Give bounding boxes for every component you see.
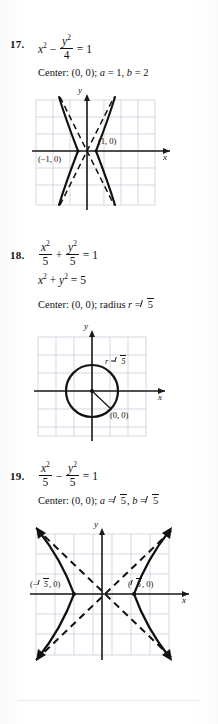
radicand: 5 <box>120 355 126 366</box>
graph-17-y-axis-label: y <box>78 85 82 95</box>
problem-19-answer: Center: (0, 0); a =5, b =5 <box>38 494 159 507</box>
graph-17-svg <box>30 86 180 211</box>
equation-fraction-1: x2 5 <box>39 461 52 488</box>
fraction-denominator: 4 <box>60 48 73 61</box>
vertex-right-point <box>94 149 97 152</box>
problem-19-equation: x2 5 − y2 5 = 1 <box>38 461 98 488</box>
radius-label: r <box>128 299 132 310</box>
graph-18-radius-label: r =5 <box>105 355 126 366</box>
fraction-1-denominator: 5 <box>39 254 52 267</box>
axes <box>30 530 189 660</box>
problem-17-answer: Center: (0, 0); a = 1, b = 2 <box>38 67 148 78</box>
equation-operator: − <box>50 43 57 55</box>
fraction-2-numerator-exponent: 2 <box>73 460 77 469</box>
graph-problem-17: y x (−1, 0) (1, 0) <box>30 86 180 211</box>
simplified-term-1-exponent: 2 <box>43 272 47 281</box>
a-label: a <box>100 67 105 78</box>
simplified-term-2-exponent: 2 <box>64 272 68 281</box>
problem-17-number: 17. <box>10 38 24 50</box>
vertex-left-point <box>76 149 79 152</box>
b-value: = 2 <box>135 67 149 78</box>
a-radical-sign: 5 <box>114 494 127 507</box>
fraction-numerator: y2 <box>60 34 73 48</box>
center-label: Center: <box>38 67 69 78</box>
simplified-equals: = 5 <box>71 274 86 286</box>
b-label: b <box>127 67 132 78</box>
equation-equals: = 1 <box>83 470 98 482</box>
graph-problem-19: y x (−5, 0) (5, 0) <box>24 522 204 662</box>
equation-equals: = 1 <box>77 43 92 55</box>
radicand: 5 <box>43 578 49 589</box>
b-radical-sign: 5 <box>146 494 159 507</box>
fraction-1-numerator-exponent: 2 <box>46 460 50 469</box>
equation-operator: + <box>56 249 63 261</box>
axes <box>34 332 165 441</box>
fraction-2-numerator: y2 <box>66 461 79 475</box>
graph-17-vertex-right-label: (1, 0) <box>98 136 116 146</box>
equation-term-x-exponent: 2 <box>43 41 47 50</box>
fraction-1-numerator-exponent: 2 <box>46 239 50 248</box>
y-axis-arrow <box>99 528 105 535</box>
page-footer-rule <box>18 700 200 701</box>
fraction-2-denominator: 5 <box>66 254 79 267</box>
vertex-right-point <box>132 592 136 596</box>
fraction-2-denominator: 5 <box>66 475 79 488</box>
problem-18-number: 18. <box>10 249 24 261</box>
radius-segment <box>92 391 111 409</box>
center-point <box>90 389 94 393</box>
a-label: a <box>100 495 105 506</box>
fraction-1-denominator: 5 <box>39 475 52 488</box>
graph-19-x-axis-label: x <box>182 595 186 605</box>
vertex-left-point <box>72 592 76 596</box>
radicand: 5 <box>136 578 142 589</box>
graph-18-center-label: (0, 0) <box>110 410 128 420</box>
radical-sign: 5 <box>115 355 126 366</box>
a-value: = 1, <box>108 67 124 78</box>
graph-19-vertex-right-label: (5, 0) <box>128 578 153 589</box>
b-radicand: 5 <box>152 494 159 507</box>
problem-18-answer: Center: (0, 0); radius r =5 <box>38 298 154 311</box>
problem-18-equation: x2 5 + y2 5 = 1 <box>38 240 98 267</box>
equation-fraction: y2 4 <box>60 34 73 61</box>
graph-19-svg <box>24 522 204 662</box>
radius-var: r <box>105 356 108 366</box>
b-label: b <box>132 495 137 506</box>
simplified-operator: + <box>50 274 57 286</box>
center-label: Center: <box>38 495 69 506</box>
textbook-answer-page: 17. x2 − y2 4 = 1 Center: (0, 0); a = 1,… <box>0 0 218 724</box>
radicand: 5 <box>147 298 154 311</box>
radical-sign: 5 <box>38 578 49 589</box>
equation-fraction-1: x2 5 <box>39 240 52 267</box>
equation-fraction-2: y2 5 <box>66 461 79 488</box>
center-value: (0, 0); <box>72 67 98 78</box>
graph-18-x-axis-label: x <box>158 392 162 402</box>
a-radicand: 5 <box>120 494 127 507</box>
vertex-right-suffix: , 0) <box>142 579 153 589</box>
graph-17-x-axis-label: x <box>163 152 167 162</box>
graph-18-y-axis-label: y <box>84 321 88 331</box>
center-label: Center: <box>38 299 69 310</box>
fraction-2-numerator-exponent: 2 <box>73 239 77 248</box>
problem-17-equation: x2 − y2 4 = 1 <box>38 34 92 61</box>
graph-17-vertex-left-label: (−1, 0) <box>38 154 61 164</box>
graph-18-svg <box>32 324 182 442</box>
graph-19-vertex-left-label: (−5, 0) <box>30 578 60 589</box>
fraction-1-numerator: x2 <box>39 240 52 254</box>
graph-19-y-axis-label: y <box>94 519 98 529</box>
y-axis-arrow <box>84 94 90 101</box>
problem-19-number: 19. <box>10 470 24 482</box>
answer-comma: , <box>127 495 130 506</box>
fraction-numerator-exponent: 2 <box>67 33 71 42</box>
equation-equals: = 1 <box>83 249 98 261</box>
radical-sign: 5 <box>141 298 154 311</box>
equation-fraction-2: y2 5 <box>66 240 79 267</box>
problem-18-equation-simplified: x2 + y2 = 5 <box>38 272 86 286</box>
vertex-left-suffix: , 0) <box>49 579 60 589</box>
equation-operator: − <box>56 470 63 482</box>
center-value: (0, 0); radius <box>72 299 126 310</box>
fraction-1-numerator: x2 <box>39 461 52 475</box>
graph-problem-18: y x r =5 (0, 0) <box>32 324 182 442</box>
y-axis-arrow <box>89 330 95 337</box>
center-value: (0, 0); <box>72 495 98 506</box>
radical-sign: 5 <box>131 578 142 589</box>
